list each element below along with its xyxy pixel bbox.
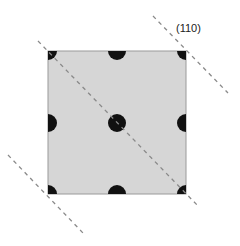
atom-edge-bottom <box>108 185 126 203</box>
atom-edge-top <box>108 42 126 60</box>
atom-corner-bl <box>39 185 57 203</box>
crystal-diagram <box>0 0 240 246</box>
atom-corner-tl <box>39 42 57 60</box>
atom-corner-tr <box>177 42 195 60</box>
atom-edge-left <box>39 114 57 132</box>
plane-label: (110) <box>176 22 201 34</box>
atom-edge-right <box>177 114 195 132</box>
